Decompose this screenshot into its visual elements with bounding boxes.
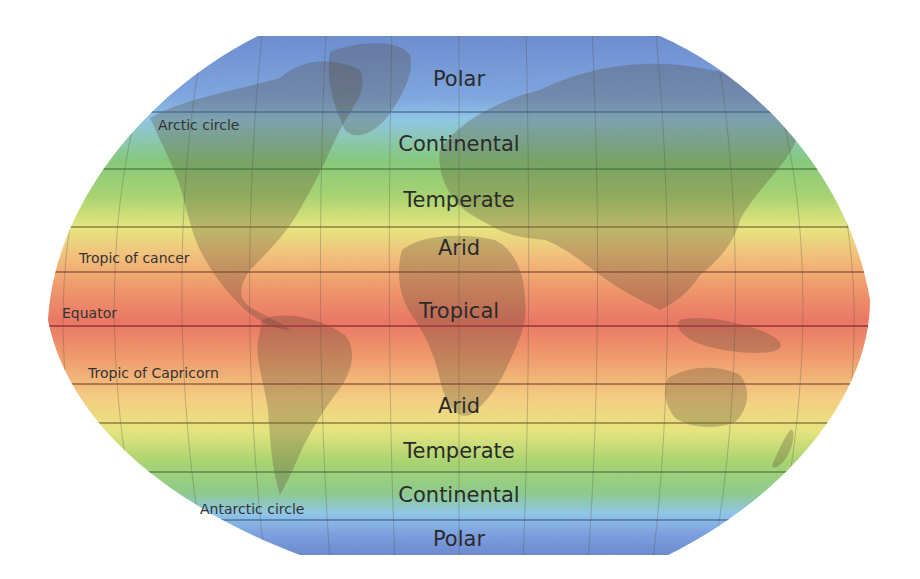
zone-label-temperate-north: Temperate	[402, 188, 515, 212]
label-arctic-circle: Arctic circle	[158, 117, 239, 133]
world-climate-map: Polar Continental Temperate Arid Tropica…	[0, 0, 920, 579]
zone-label-arid-north: Arid	[438, 236, 480, 260]
zone-label-continental-north: Continental	[398, 132, 519, 156]
zone-label-tropical: Tropical	[418, 299, 499, 323]
zone-label-temperate-south: Temperate	[402, 439, 515, 463]
label-tropic-of-cancer: Tropic of cancer	[78, 250, 190, 266]
zone-label-continental-south: Continental	[398, 483, 519, 507]
label-tropic-of-capricorn: Tropic of Capricorn	[87, 365, 219, 381]
label-antarctic-circle: Antarctic circle	[200, 501, 304, 517]
label-equator: Equator	[62, 305, 117, 321]
zone-label-polar-south: Polar	[433, 527, 485, 551]
zone-label-polar-north: Polar	[433, 67, 485, 91]
zone-label-arid-south: Arid	[438, 394, 480, 418]
